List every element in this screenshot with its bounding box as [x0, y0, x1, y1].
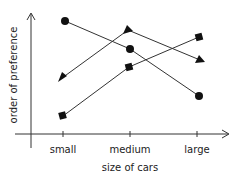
circle-marker-small: [61, 17, 69, 25]
square-marker-small: [58, 111, 67, 120]
chart-canvas: small medium large size of cars order of…: [0, 0, 239, 183]
series-circle: [61, 17, 203, 100]
square-marker-large: [195, 33, 204, 42]
x-tick-label-medium: medium: [109, 144, 150, 155]
triangle-marker-small: [58, 72, 67, 82]
square-marker-medium: [125, 63, 134, 72]
x-axis-title: size of cars: [102, 162, 158, 173]
triangle-marker-medium: [123, 25, 133, 34]
x-tick-label-small: small: [50, 144, 77, 155]
x-axis: [15, 130, 229, 138]
circle-marker-large: [195, 92, 203, 100]
y-axis: [27, 13, 35, 148]
series-triangle: [58, 25, 205, 82]
circle-marker-medium: [126, 45, 134, 53]
x-tick-label-large: large: [184, 144, 209, 155]
y-axis-title: order of preference: [8, 27, 19, 124]
